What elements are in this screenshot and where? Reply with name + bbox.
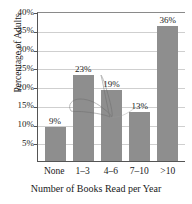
bar	[45, 127, 66, 161]
x-axis-tick-label: >10	[157, 165, 178, 178]
y-axis-tick-label: 35%	[4, 26, 34, 35]
books-read-bar-chart: Percentage of Adults 5%10%15%20%25%30%35…	[0, 0, 192, 204]
bar-value-label: 36%	[148, 15, 188, 25]
y-axis-tick-label: 30%	[4, 45, 34, 54]
bar-group: 9%	[45, 13, 66, 161]
bar-value-label: 13%	[120, 101, 160, 111]
bar-group: 36%	[157, 13, 178, 161]
y-axis-tick-label: 10%	[4, 120, 34, 129]
y-axis-tick-labels: 5%10%15%20%25%30%35%40%	[4, 8, 34, 166]
x-axis-tick-label: 4–6	[100, 165, 121, 178]
x-axis-tick-label: None	[44, 165, 65, 178]
bar	[129, 112, 150, 161]
bar-group: 19%	[101, 13, 122, 161]
bar	[157, 26, 178, 161]
x-axis-tick-label: 1–3	[72, 165, 93, 178]
x-axis-title: Number of Books Read per Year	[0, 182, 192, 195]
bar-group: 13%	[129, 13, 150, 161]
y-axis-tick-label: 40%	[4, 8, 34, 17]
bar-value-label: 9%	[35, 116, 75, 126]
x-axis-tick-label: 7–10	[129, 165, 150, 178]
plot-area: 9%23%19%13%36%	[37, 12, 185, 162]
y-axis-tick-label: 5%	[4, 139, 34, 148]
y-axis-tick-label: 20%	[4, 83, 34, 92]
bar-value-label: 19%	[91, 79, 131, 89]
bar-value-label: 23%	[63, 64, 103, 74]
y-axis-tick-label: 25%	[4, 64, 34, 73]
bar-series: 9%23%19%13%36%	[38, 13, 185, 161]
y-axis-tick-label: 15%	[4, 101, 34, 110]
x-axis-tick-labels: None1–34–67–10>10	[37, 165, 185, 178]
